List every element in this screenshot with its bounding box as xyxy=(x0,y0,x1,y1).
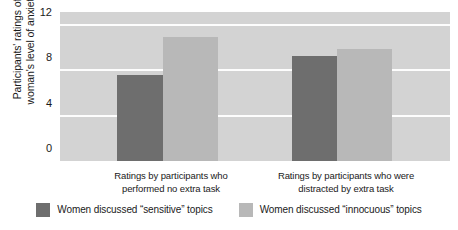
x-label-group-2-line-1: Ratings by participants who were xyxy=(247,170,445,183)
bar-group2-innocuous[interactable] xyxy=(337,49,392,161)
bar-group2-sensitive[interactable] xyxy=(292,56,337,161)
y-tick-label-4: 4 xyxy=(12,98,52,109)
legend-label-sensitive: Women discussed “sensitive” topics xyxy=(57,204,212,216)
bar-group1-innocuous[interactable] xyxy=(163,37,218,161)
bar-chart: Participants' ratings of woman's level o… xyxy=(0,0,458,230)
legend: Women discussed “sensitive” topics Women… xyxy=(0,203,458,225)
legend-swatch-innocuous-icon xyxy=(239,203,253,217)
x-label-group-1: Ratings by participants who performed no… xyxy=(76,170,266,195)
x-label-group-1-line-2: performed no extra task xyxy=(76,183,266,196)
legend-swatch-sensitive-icon xyxy=(36,203,50,217)
gridline-12 xyxy=(60,24,450,26)
plot-area xyxy=(60,12,450,161)
x-axis-labels: Ratings by participants who performed no… xyxy=(60,170,450,202)
x-label-group-2: Ratings by participants who were distrac… xyxy=(247,170,445,195)
y-tick-label-12: 12 xyxy=(12,7,52,18)
y-tick-label-8: 8 xyxy=(12,52,52,63)
bar-group1-sensitive[interactable] xyxy=(117,75,163,161)
legend-item-innocuous[interactable]: Women discussed “innocuous” topics xyxy=(239,203,422,217)
y-tick-label-0: 0 xyxy=(12,143,52,154)
x-label-group-2-line-2: distracted by extra task xyxy=(247,183,445,196)
y-axis-tick-labels: 12 8 4 0 xyxy=(0,0,60,170)
legend-item-sensitive[interactable]: Women discussed “sensitive” topics xyxy=(36,203,212,217)
legend-label-innocuous: Women discussed “innocuous” topics xyxy=(260,204,422,216)
x-label-group-1-line-1: Ratings by participants who xyxy=(76,170,266,183)
